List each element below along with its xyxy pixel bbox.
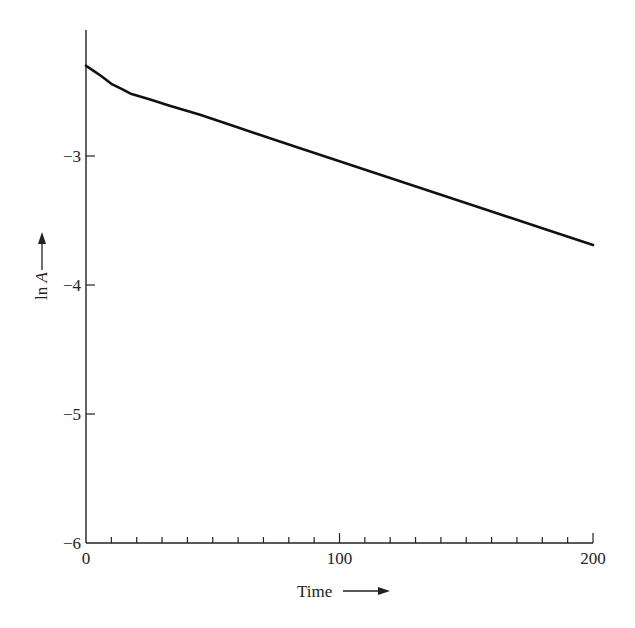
y-tick-label: −5 bbox=[63, 405, 81, 424]
y-tick-label: −3 bbox=[63, 147, 81, 166]
tick-labels: 0100200−3−4−5−6 bbox=[63, 147, 606, 568]
x-axis-title: Time bbox=[297, 582, 332, 601]
ticks bbox=[86, 156, 593, 543]
y-axis-title-prefix: ln bbox=[32, 283, 51, 300]
y-axis-title-group: ln A bbox=[32, 232, 51, 300]
y-tick-label: −4 bbox=[63, 276, 82, 295]
axes bbox=[86, 30, 593, 543]
y-axis-title-arrow-head bbox=[38, 232, 46, 244]
series-line bbox=[86, 66, 593, 245]
x-tick-label: 100 bbox=[327, 549, 353, 568]
y-axis-title: ln A bbox=[32, 272, 51, 300]
y-tick-label: −6 bbox=[63, 534, 81, 553]
y-axis-title-var: A bbox=[32, 272, 51, 284]
x-tick-label: 0 bbox=[82, 549, 91, 568]
x-tick-label: 200 bbox=[580, 549, 606, 568]
series bbox=[86, 66, 593, 245]
chart: 0100200−3−4−5−6 Time ln A bbox=[0, 0, 635, 628]
x-axis-title-arrow-head bbox=[378, 587, 390, 595]
